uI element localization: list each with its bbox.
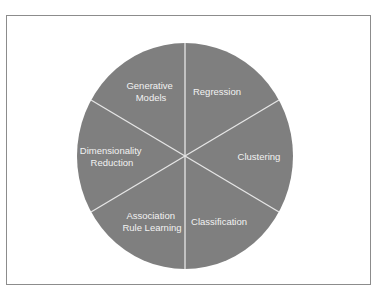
slice-label-association-rule-learning: Association Rule Learning <box>122 210 181 233</box>
slice-label-regression: Regression <box>193 86 241 97</box>
slice-label-clustering: Clustering <box>238 151 281 162</box>
slice-label-classification: Classification <box>191 216 247 227</box>
